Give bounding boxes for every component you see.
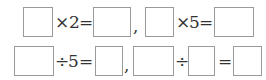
times-sign: × (55, 12, 69, 32)
answer-box-r1-4[interactable] (214, 7, 254, 37)
answer-box-r2-5[interactable] (233, 46, 262, 76)
answer-box-r2-1[interactable] (14, 46, 54, 76)
comma-separator: , (133, 16, 138, 36)
answer-box-r2-3[interactable] (133, 46, 174, 76)
equals-sign: = (199, 12, 213, 32)
equals-sign: = (79, 51, 93, 71)
comma-separator: , (124, 55, 129, 75)
operand-5: 5 (68, 51, 79, 71)
equals-sign: = (79, 12, 93, 32)
equals-sign: = (218, 51, 232, 71)
answer-box-r1-1[interactable] (23, 7, 53, 37)
answer-box-r2-2[interactable] (95, 46, 123, 76)
answer-box-r1-2[interactable] (93, 7, 131, 37)
answer-box-r1-3[interactable] (145, 7, 174, 37)
answer-box-r2-4[interactable] (188, 46, 215, 76)
